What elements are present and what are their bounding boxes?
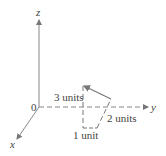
x-axis-label: x — [9, 138, 15, 150]
height-label: 3 units — [54, 91, 84, 103]
vector-diagram: z y x 0 3 units 2 units 1 unit — [0, 0, 166, 156]
depth-label: 2 units — [107, 112, 137, 124]
width-label: 1 unit — [73, 129, 98, 141]
y-axis-label: y — [150, 101, 156, 113]
vector-arrow — [84, 86, 111, 99]
diagram-canvas: z y x 0 3 units 2 units 1 unit — [0, 0, 166, 156]
z-axis-label: z — [35, 6, 41, 18]
origin-label: 0 — [31, 101, 37, 113]
